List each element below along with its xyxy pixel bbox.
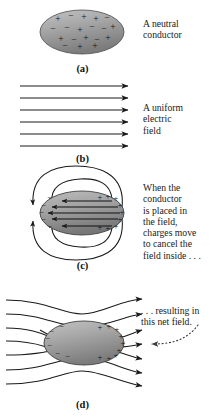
svg-text:−: −	[48, 340, 53, 350]
svg-text:+: +	[77, 42, 82, 52]
conductor-ellipse-d	[44, 321, 124, 365]
svg-text:−: −	[56, 348, 61, 358]
svg-text:−: −	[50, 24, 55, 34]
svg-text:+: +	[98, 352, 103, 362]
svg-text:−: −	[42, 214, 47, 224]
svg-text:+: +	[98, 322, 103, 332]
svg-text:−: −	[48, 192, 53, 202]
note-charges-cancel: When the conductor is placed in the fiel…	[143, 182, 223, 261]
svg-text:−: −	[89, 22, 94, 32]
svg-text:+: +	[110, 22, 115, 32]
svg-text:+: +	[98, 192, 103, 202]
field-line-d-7	[6, 371, 142, 386]
svg-text:+: +	[114, 350, 119, 360]
note-uniform-field: A uniform electric field	[143, 102, 221, 136]
svg-text:−: −	[68, 11, 73, 21]
svg-text:+: +	[106, 223, 111, 233]
svg-text:+: +	[107, 353, 112, 363]
svg-text:−: −	[71, 35, 76, 45]
note-net-field: . . . resulting in this net field.	[141, 305, 223, 328]
pointer-dotted-arrow-d	[152, 325, 198, 344]
svg-text:+: +	[106, 191, 111, 201]
svg-text:+: +	[55, 14, 60, 24]
svg-text:−: −	[62, 41, 67, 51]
panel-b-group	[20, 86, 128, 146]
svg-text:+: +	[83, 33, 88, 43]
svg-text:+: +	[81, 12, 86, 22]
svg-text:−: −	[48, 221, 53, 231]
panel-caption-d: (d)	[0, 399, 165, 410]
svg-text:+: +	[98, 222, 103, 232]
panel-a-group: +−+ +− −−+ −−+ +−+ −+ −++	[40, 10, 124, 54]
svg-text:−: −	[60, 321, 65, 331]
note-neutral-conductor: A neutral conductor	[143, 18, 221, 41]
panel-caption-a: (a)	[0, 63, 165, 74]
svg-text:+: +	[92, 41, 97, 51]
panel-caption-b: (b)	[0, 153, 165, 164]
svg-text:+: +	[107, 321, 112, 331]
svg-text:+: +	[105, 33, 110, 43]
figure-electrostatic-shielding: +−+ +− −−+ −−+ +−+ −+ −++	[0, 0, 223, 419]
panel-caption-c: (c)	[0, 260, 165, 271]
svg-text:+: +	[77, 25, 82, 35]
svg-text:+: +	[114, 221, 119, 231]
svg-text:−: −	[64, 23, 69, 33]
svg-text:−: −	[104, 13, 109, 23]
panel-c-group: −− −−− +++ +++ +++	[33, 166, 125, 260]
field-line-d-1	[6, 299, 142, 314]
svg-text:−: −	[66, 351, 71, 361]
